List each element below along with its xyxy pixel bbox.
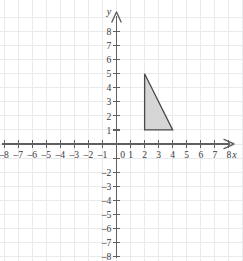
y-tick-label: 5 xyxy=(107,68,112,79)
axis-names: xy xyxy=(106,6,238,161)
y-tick-label: –8 xyxy=(101,251,112,261)
x-tick-label: 3 xyxy=(156,149,161,160)
x-tick-label: 6 xyxy=(198,149,203,160)
y-tick-label: 8 xyxy=(107,26,112,37)
coordinate-plane-figure: –8–7–6–5–4–3–2–112345678–8–7–6–5–4–3–212… xyxy=(0,0,243,261)
axes xyxy=(2,12,234,258)
y-tick-label: 2 xyxy=(107,111,112,122)
y-tick-label: 4 xyxy=(107,82,112,93)
x-tick-label: –4 xyxy=(55,149,66,160)
y-axis-name: y xyxy=(106,6,112,17)
y-tick-label: 3 xyxy=(107,96,112,107)
y-tick-label: 6 xyxy=(107,54,112,65)
y-tick-label: 1 xyxy=(107,125,112,136)
y-tick-label: –4 xyxy=(101,195,112,206)
x-tick-label: 8 xyxy=(227,149,232,160)
x-tick-label: –6 xyxy=(26,149,37,160)
x-tick-label: 7 xyxy=(212,149,217,160)
coordinate-plane-svg: –8–7–6–5–4–3–2–112345678–8–7–6–5–4–3–212… xyxy=(0,0,243,261)
x-tick-label: –7 xyxy=(12,149,23,160)
x-tick-label: –1 xyxy=(97,149,108,160)
x-tick-label: –5 xyxy=(40,149,51,160)
x-axis-name: x xyxy=(231,149,237,160)
y-tick-label: –7 xyxy=(101,237,112,248)
x-tick-label: 2 xyxy=(142,149,147,160)
grid-lines xyxy=(0,0,243,261)
y-tick-label: –2 xyxy=(101,167,112,178)
x-tick-label: –8 xyxy=(0,149,9,160)
y-tick-label: 7 xyxy=(107,40,112,51)
x-tick-label: –2 xyxy=(83,149,94,160)
x-tick-label: 5 xyxy=(184,149,189,160)
x-tick-label: –3 xyxy=(69,149,80,160)
y-tick-label: –5 xyxy=(101,209,112,220)
origin-label: 0 xyxy=(120,149,125,160)
y-tick-label: –6 xyxy=(101,223,112,234)
y-tick-label: –3 xyxy=(101,181,112,192)
x-tick-label: 4 xyxy=(170,149,175,160)
x-tick-label: 1 xyxy=(128,149,133,160)
